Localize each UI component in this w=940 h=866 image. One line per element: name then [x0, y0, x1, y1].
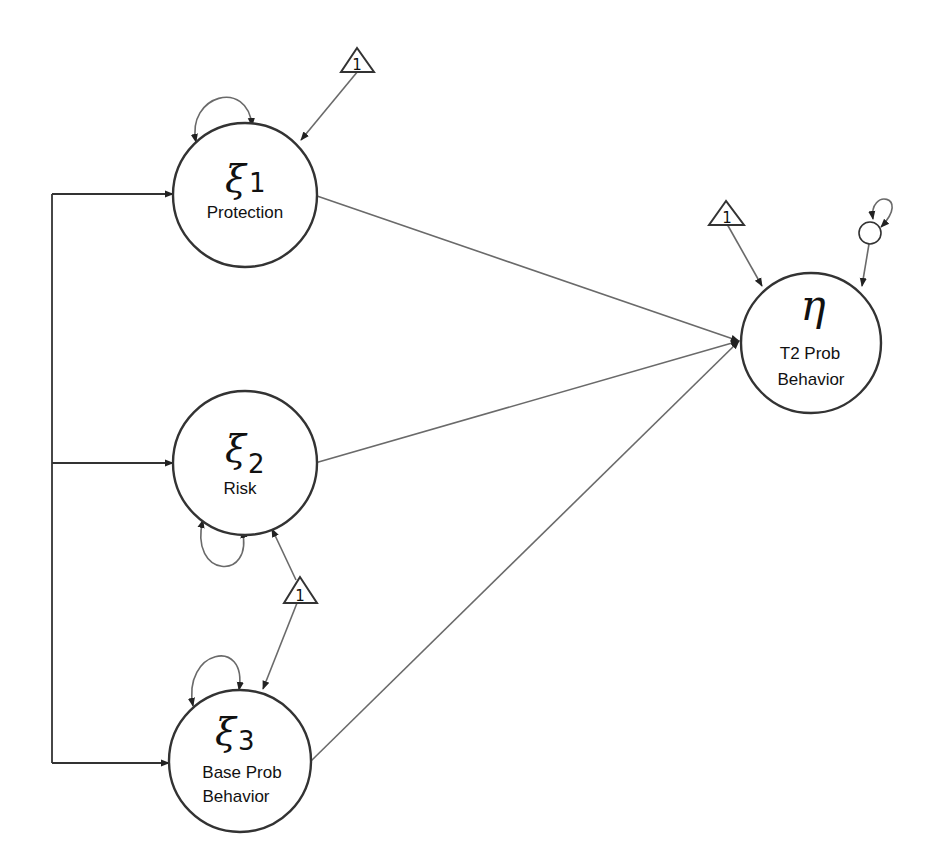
node-label-line1: Base Prob — [202, 763, 281, 782]
node-symbol: ξ — [225, 427, 248, 471]
node-xi1: ξ 1 Protection — [173, 123, 317, 267]
node-label: Protection — [207, 203, 284, 222]
constant-triangle-xi1: 1 — [341, 48, 374, 74]
path-disturbance-to-eta — [862, 244, 869, 286]
covariance-bracket — [52, 194, 173, 763]
constant-triangle-eta: 1 — [709, 201, 744, 227]
constant-label: 1 — [352, 56, 362, 74]
node-subscript: 2 — [248, 449, 265, 479]
node-label-line1: T2 Prob — [780, 344, 840, 363]
node-subscript: 1 — [249, 168, 266, 198]
node-label-line2: Behavior — [202, 787, 269, 806]
path-xi1-to-eta — [317, 196, 739, 341]
disturbance-node — [859, 222, 881, 244]
regression-paths — [311, 196, 739, 761]
node-symbol: η — [800, 281, 825, 330]
constant-label: 1 — [722, 209, 732, 227]
node-label: Risk — [223, 479, 257, 498]
node-label-line2: Behavior — [777, 370, 844, 389]
path-const-to-xi1 — [301, 71, 358, 140]
path-const-to-xi2 — [272, 529, 296, 580]
path-xi2-to-eta — [315, 341, 739, 463]
path-const-to-eta — [727, 224, 762, 286]
constant-triangle-xi2-xi3: 1 — [284, 577, 317, 605]
node-symbol: ξ — [225, 157, 248, 201]
constant-label: 1 — [295, 587, 305, 605]
sem-path-diagram: ξ 1 Protection ξ 2 Risk ξ 3 Base Prob Be… — [0, 0, 940, 866]
path-const-to-xi3 — [263, 603, 297, 689]
node-subscript: 3 — [238, 726, 255, 756]
node-xi3: ξ 3 Base Prob Behavior — [169, 690, 311, 832]
path-xi3-to-eta — [311, 341, 739, 761]
node-eta: η T2 Prob Behavior — [741, 273, 881, 413]
diagram-svg: ξ 1 Protection ξ 2 Risk ξ 3 Base Prob Be… — [0, 0, 940, 866]
node-symbol: ξ — [215, 710, 238, 754]
node-xi2: ξ 2 Risk — [173, 391, 317, 535]
